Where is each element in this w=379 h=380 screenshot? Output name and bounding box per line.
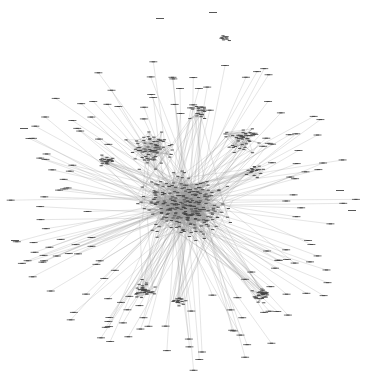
graph-node [176, 300, 179, 301]
graph-node [172, 78, 175, 79]
graph-node [152, 141, 155, 142]
graph-node [231, 145, 234, 146]
graph-node [39, 219, 42, 220]
graph-node [304, 171, 307, 172]
graph-node [207, 200, 210, 201]
graph-node [147, 292, 150, 293]
graph-node [222, 39, 225, 40]
graph-node [146, 146, 149, 147]
graph-node [157, 139, 160, 140]
graph-node [155, 152, 158, 153]
isolated-node-label [11, 240, 19, 241]
graph-node [185, 198, 188, 199]
graph-node [174, 198, 177, 199]
graph-node [183, 212, 186, 213]
graph-node [99, 159, 102, 160]
graph-node [199, 193, 202, 194]
graph-node [161, 203, 164, 204]
graph-node [163, 201, 166, 202]
graph-node [250, 272, 253, 273]
graph-node [202, 110, 205, 111]
graph-node [71, 165, 74, 166]
graph-node [214, 211, 217, 212]
graph-node [110, 90, 113, 91]
graph-node [28, 138, 31, 139]
graph-node [26, 260, 29, 261]
graph-node [206, 220, 209, 221]
graph-node [194, 208, 197, 209]
graph-node [187, 178, 190, 179]
graph-node [237, 138, 240, 139]
graph-node [71, 120, 74, 121]
graph-node [189, 205, 192, 206]
graph-node [106, 104, 109, 105]
graph-node [42, 260, 45, 261]
graph-node [263, 68, 266, 69]
graph-node [142, 118, 145, 119]
graph-node [174, 187, 177, 188]
graph-node [147, 136, 150, 137]
graph-node [206, 216, 209, 217]
edge-layer [11, 36, 356, 370]
graph-node [142, 196, 145, 197]
graph-node [253, 134, 256, 135]
graph-edge [185, 116, 314, 186]
isolated-node-label [209, 12, 217, 13]
graph-node [153, 287, 156, 288]
graph-node [43, 196, 46, 197]
graph-node [170, 203, 173, 204]
graph-node [146, 160, 149, 161]
graph-node [180, 232, 183, 233]
graph-node [167, 213, 170, 214]
graph-node [39, 158, 42, 159]
graph-node [245, 143, 248, 144]
graph-node [200, 226, 203, 227]
graph-node [57, 190, 60, 191]
graph-node [192, 104, 195, 105]
graph-node [176, 176, 179, 177]
graph-node [138, 284, 141, 285]
graph-node [310, 244, 313, 245]
graph-node [171, 185, 174, 186]
graph-node [261, 292, 264, 293]
graph-node [265, 138, 268, 139]
graph-edge [198, 66, 225, 202]
graph-node [212, 209, 215, 210]
graph-node [199, 114, 202, 115]
graph-node [259, 173, 262, 174]
graph-node [180, 183, 183, 184]
graph-node [68, 171, 71, 172]
graph-node [150, 94, 153, 95]
graph-node [211, 295, 214, 296]
graph-node [257, 292, 260, 293]
graph-node [194, 194, 197, 195]
graph-node [206, 87, 209, 88]
graph-node [183, 187, 186, 188]
graph-node [97, 139, 100, 140]
graph-node [117, 106, 120, 107]
graph-node [153, 293, 156, 294]
graph-node [219, 38, 222, 39]
graph-node [170, 154, 173, 155]
graph-node [233, 152, 236, 153]
graph-node [153, 199, 156, 200]
graph-node [255, 71, 258, 72]
graph-node [147, 326, 150, 327]
graph-node [166, 214, 169, 215]
graph-node [137, 147, 140, 148]
graph-node [247, 140, 250, 141]
graph-node [244, 133, 247, 134]
graph-node [192, 77, 195, 78]
graph-node [197, 213, 200, 214]
graph-node [198, 211, 201, 212]
graph-node [138, 150, 141, 151]
graph-node [265, 251, 268, 252]
graph-node [201, 189, 204, 190]
graph-node [229, 309, 232, 310]
graph-node [203, 238, 206, 239]
isolated-node-label [336, 190, 344, 191]
graph-edge [227, 129, 253, 132]
graph-node [111, 161, 114, 162]
graph-node [90, 246, 93, 247]
graph-node [103, 278, 106, 279]
